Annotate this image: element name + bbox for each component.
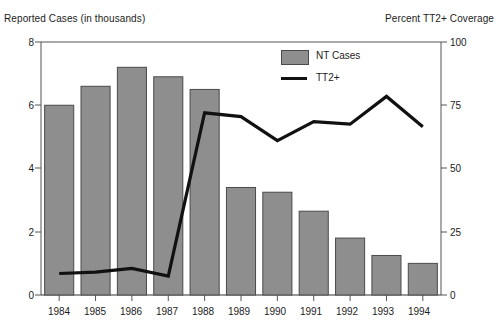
- chart-figure: Reported Cases (in thousands) Percent TT…: [0, 0, 500, 329]
- bar-1984: [45, 105, 74, 295]
- bar-1991: [299, 211, 328, 295]
- bar-1987: [154, 77, 183, 295]
- bar-1994: [408, 263, 437, 295]
- bar-1985: [81, 86, 110, 295]
- bar-1986: [117, 67, 146, 295]
- left-axis-ticks: [35, 42, 41, 295]
- bar-1992: [336, 238, 365, 295]
- x-axis-ticks: [59, 295, 423, 301]
- plot-area: [0, 0, 500, 329]
- bar-1988: [190, 89, 219, 295]
- bar-1989: [226, 187, 255, 295]
- right-axis-ticks: [441, 42, 447, 295]
- bar-1993: [372, 255, 401, 295]
- bar-1990: [263, 192, 292, 295]
